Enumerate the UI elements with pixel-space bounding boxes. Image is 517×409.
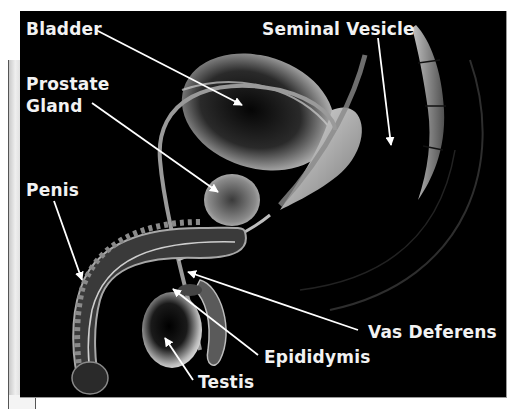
label-seminal-vesicle: Seminal Vesicle xyxy=(262,19,415,39)
prostate-shape xyxy=(204,174,260,226)
label-prostate-line2: Gland xyxy=(26,96,83,116)
label-testis: Testis xyxy=(198,372,254,392)
label-vas-deferens: Vas Deferens xyxy=(368,322,497,342)
penis-leader xyxy=(54,201,82,280)
label-bladder: Bladder xyxy=(26,19,102,39)
label-prostate-line1: Prostate xyxy=(26,74,110,94)
label-penis: Penis xyxy=(26,180,79,200)
anatomy-illustration xyxy=(0,0,517,409)
spine xyxy=(412,25,446,200)
label-epididymis: Epididymis xyxy=(264,347,371,367)
glans-shape xyxy=(72,362,108,394)
seminal-vesicle-leader xyxy=(378,38,391,145)
